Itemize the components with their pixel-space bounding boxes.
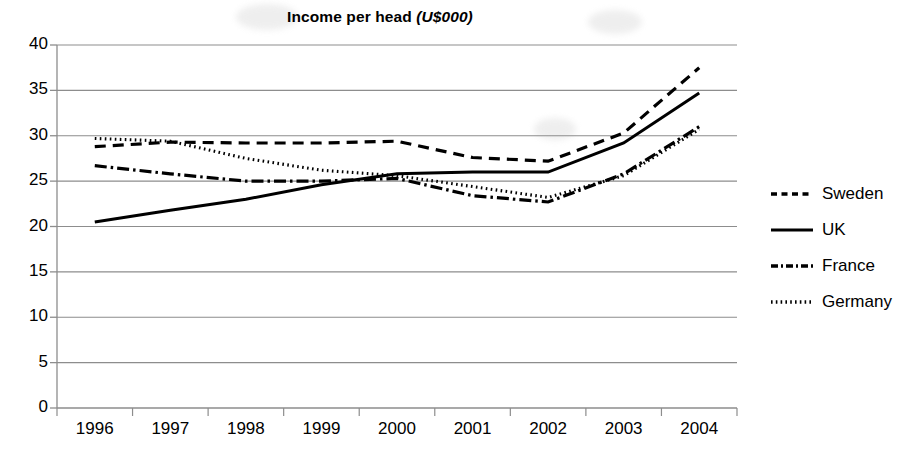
chart-page: Income per head (U$000) 4035302520151050… bbox=[0, 0, 906, 454]
x-tick-label: 2003 bbox=[581, 419, 667, 439]
series-line-uk bbox=[95, 93, 699, 222]
y-tick-label: 0 bbox=[6, 397, 48, 417]
y-tick-label: 25 bbox=[6, 170, 48, 190]
series-line-france bbox=[95, 127, 699, 202]
legend-label: Germany bbox=[822, 292, 892, 312]
y-tick-label: 20 bbox=[6, 216, 48, 236]
x-tick-label: 2000 bbox=[354, 419, 440, 439]
x-tick-label: 2001 bbox=[430, 419, 516, 439]
legend-item-france[interactable]: France bbox=[770, 248, 906, 284]
y-tick-label: 10 bbox=[6, 306, 48, 326]
y-axis-ticks bbox=[50, 45, 57, 408]
legend-item-germany[interactable]: Germany bbox=[770, 284, 906, 320]
legend-swatch-dashed-icon bbox=[770, 187, 814, 201]
y-tick-label: 15 bbox=[6, 261, 48, 281]
legend-item-uk[interactable]: UK bbox=[770, 212, 906, 248]
legend-label: UK bbox=[822, 220, 846, 240]
x-tick-label: 1998 bbox=[203, 419, 289, 439]
y-tick-label: 40 bbox=[6, 34, 48, 54]
x-tick-label: 2004 bbox=[656, 419, 742, 439]
legend-item-sweden[interactable]: Sweden bbox=[770, 176, 906, 212]
x-tick-label: 1996 bbox=[52, 419, 138, 439]
legend-swatch-solid-icon bbox=[770, 223, 814, 237]
x-axis-ticks bbox=[57, 408, 737, 416]
series-line-germany bbox=[95, 129, 699, 197]
y-tick-label: 35 bbox=[6, 79, 48, 99]
legend-swatch-dash-dot-icon bbox=[770, 259, 814, 273]
legend-swatch-dotted-icon bbox=[770, 295, 814, 309]
gridlines bbox=[57, 45, 737, 408]
y-tick-label: 30 bbox=[6, 125, 48, 145]
chart-legend: SwedenUKFranceGermany bbox=[770, 176, 906, 320]
series-line-sweden bbox=[95, 68, 699, 161]
x-tick-label: 1999 bbox=[278, 419, 364, 439]
x-tick-label: 1997 bbox=[127, 419, 213, 439]
y-tick-label: 5 bbox=[6, 352, 48, 372]
legend-label: France bbox=[822, 256, 875, 276]
x-tick-label: 2002 bbox=[505, 419, 591, 439]
legend-label: Sweden bbox=[822, 184, 883, 204]
